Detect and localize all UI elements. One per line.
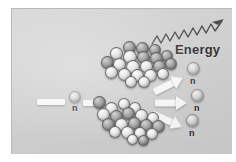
nucleon [138,135,149,146]
arrow-shaft [155,99,177,106]
nucleon [127,134,138,145]
emitted-neutron-3 [186,114,199,127]
emitted-neutron-1 [187,62,200,75]
energy-label: Energy [175,43,220,56]
nucleon [157,68,169,80]
nucleon [138,76,150,88]
emitted-neutron-1-label: n [190,77,196,86]
diagram-panel: n Energy n [11,8,232,154]
emitted-neutron-2-label: n [194,104,200,113]
nucleon [109,126,121,138]
emitted-neutron-3-label: n [189,129,195,138]
arrow-head [176,96,187,110]
nucleon [165,58,177,70]
nucleon [125,76,137,88]
emitted-neutron-2 [191,89,204,102]
fission-diagram-figure: n Energy n [0,0,236,162]
neutron-emission-arrow-middle [155,97,189,108]
nucleon [105,66,118,79]
